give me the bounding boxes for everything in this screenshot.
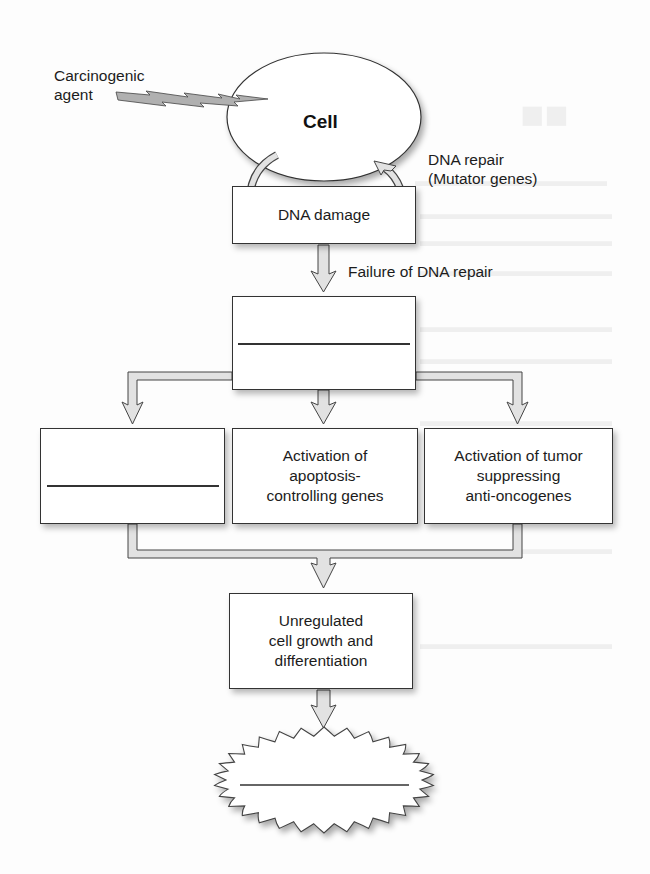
arrow-down-icon [311, 690, 336, 728]
box-text-line: anti-oncogenes [466, 486, 572, 506]
blank-step-box [232, 296, 416, 390]
blank-answer-line [47, 485, 219, 487]
box-text-line: cell growth and [269, 631, 373, 651]
dna-repair-line: DNA repair [428, 150, 537, 169]
agent-label-line: agent [54, 85, 144, 104]
unregulated-growth-box: Unregulated cell growth and differentiat… [229, 593, 413, 689]
starburst-shape [215, 727, 434, 833]
branch-box-anti-oncogenes: Activation of tumor suppressing anti-onc… [424, 428, 613, 524]
cell-label: Cell [303, 111, 338, 133]
box-text-line: suppressing [477, 466, 561, 486]
box-text-line: Activation of tumor [454, 446, 582, 466]
branch-box-apoptosis: Activation of apoptosis- controlling gen… [232, 428, 418, 524]
branch-box-left-blank [40, 428, 225, 524]
dna-repair-line: (Mutator genes) [428, 169, 537, 188]
merge-connector [128, 524, 522, 588]
carcinogenic-agent-label: Carcinogenic agent [54, 66, 144, 104]
box-text-line: Unregulated [279, 611, 363, 631]
failure-of-dna-repair-label: Failure of DNA repair [348, 262, 493, 281]
box-text-line: apoptosis- [289, 466, 361, 486]
dna-repair-label: DNA repair (Mutator genes) [428, 150, 537, 188]
box-text-line: controlling genes [266, 486, 383, 506]
dna-damage-box: DNA damage [232, 186, 416, 244]
agent-label-line: Carcinogenic [54, 66, 144, 85]
arrow-down-icon [311, 245, 336, 292]
box-text-line: differentiation [275, 651, 368, 671]
box-text-line: Activation of [283, 446, 367, 466]
blank-answer-line [238, 343, 410, 345]
dna-damage-text: DNA damage [278, 205, 370, 225]
